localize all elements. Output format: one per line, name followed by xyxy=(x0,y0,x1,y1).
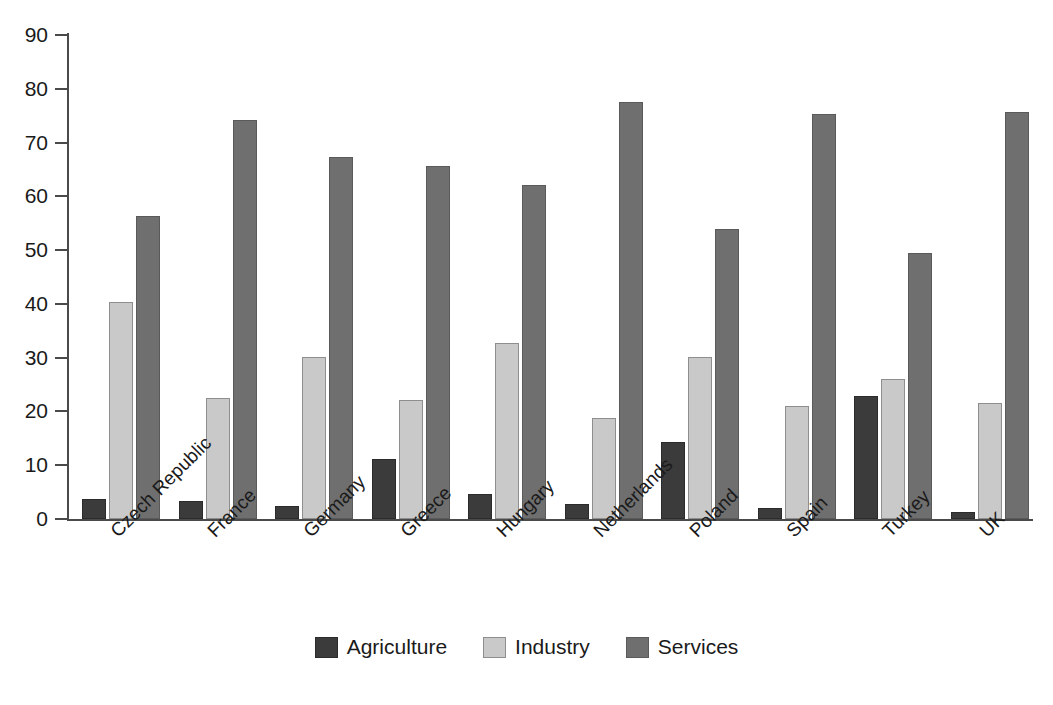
y-axis-tick xyxy=(55,249,68,251)
legend-swatch-industry xyxy=(483,637,506,658)
bar-services[interactable] xyxy=(233,120,257,519)
y-axis-tick-label: 20 xyxy=(0,400,48,421)
bar-services[interactable] xyxy=(522,185,546,519)
bar-industry[interactable] xyxy=(206,398,230,519)
bar-agriculture[interactable] xyxy=(372,459,396,519)
bar-agriculture[interactable] xyxy=(758,508,782,519)
bar-industry[interactable] xyxy=(495,343,519,519)
legend-swatch-services xyxy=(626,637,649,658)
y-axis-tick-label: 90 xyxy=(0,24,48,45)
legend-item-services[interactable]: Services xyxy=(626,636,739,658)
bar-services[interactable] xyxy=(715,229,739,519)
bar-group xyxy=(68,35,165,519)
y-axis-tick xyxy=(55,34,68,36)
bar-services[interactable] xyxy=(136,216,160,519)
legend-label: Services xyxy=(658,636,739,658)
y-axis-tick-label: 10 xyxy=(0,454,48,475)
legend-label: Industry xyxy=(515,636,590,658)
y-axis-tick xyxy=(55,464,68,466)
bar-industry[interactable] xyxy=(302,357,326,519)
bar-industry[interactable] xyxy=(399,400,423,519)
y-axis-tick-label: 30 xyxy=(0,347,48,368)
bar-agriculture[interactable] xyxy=(951,512,975,519)
y-axis-tick xyxy=(55,195,68,197)
legend-label: Agriculture xyxy=(347,636,447,658)
legend-swatch-agriculture xyxy=(315,637,338,658)
y-axis-tick-label: 0 xyxy=(0,508,48,529)
bar-group xyxy=(454,35,551,519)
bar-services[interactable] xyxy=(426,166,450,519)
bar-agriculture[interactable] xyxy=(854,396,878,519)
y-axis-tick xyxy=(55,357,68,359)
chart-legend: AgricultureIndustryServices xyxy=(0,636,1053,658)
bar-group xyxy=(551,35,648,519)
y-axis-tick-label: 40 xyxy=(0,293,48,314)
y-axis-tick-label: 70 xyxy=(0,132,48,153)
bar-group xyxy=(937,35,1034,519)
bar-services[interactable] xyxy=(908,253,932,519)
y-axis-tick xyxy=(55,410,68,412)
bar-group xyxy=(358,35,455,519)
bar-agriculture[interactable] xyxy=(179,501,203,519)
y-axis-tick-label: 50 xyxy=(0,239,48,260)
bar-services[interactable] xyxy=(1005,112,1029,519)
bar-services[interactable] xyxy=(329,157,353,519)
bar-industry[interactable] xyxy=(978,403,1002,519)
bar-industry[interactable] xyxy=(881,379,905,519)
bar-industry[interactable] xyxy=(109,302,133,519)
bar-agriculture[interactable] xyxy=(468,494,492,519)
y-axis-tick xyxy=(55,88,68,90)
bar-industry[interactable] xyxy=(688,357,712,519)
y-axis-tick xyxy=(55,518,68,520)
bar-agriculture[interactable] xyxy=(82,499,106,519)
y-axis-tick-label: 80 xyxy=(0,78,48,99)
y-axis-tick xyxy=(55,303,68,305)
bar-group xyxy=(261,35,358,519)
bar-services[interactable] xyxy=(812,114,836,519)
bar-group xyxy=(647,35,744,519)
bar-group xyxy=(840,35,937,519)
y-axis-tick xyxy=(55,142,68,144)
bar-chart: 0102030405060708090 Czech RepublicFrance… xyxy=(0,0,1053,705)
bar-agriculture[interactable] xyxy=(275,506,299,519)
legend-item-agriculture[interactable]: Agriculture xyxy=(315,636,447,658)
bar-group xyxy=(744,35,841,519)
legend-item-industry[interactable]: Industry xyxy=(483,636,590,658)
bar-agriculture[interactable] xyxy=(565,504,589,519)
y-axis-tick-label: 60 xyxy=(0,185,48,206)
bar-services[interactable] xyxy=(619,102,643,519)
